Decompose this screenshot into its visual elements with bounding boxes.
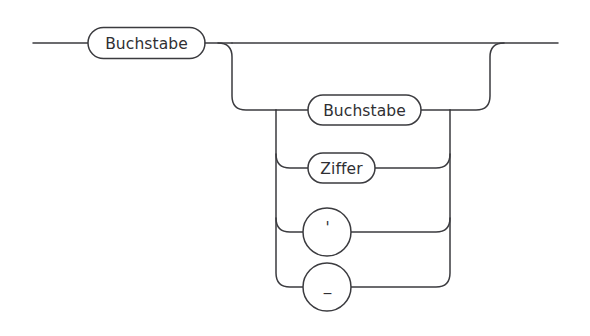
node-first-buchstabe[interactable]: Buchstabe: [88, 28, 205, 59]
railroad-diagram: Buchstabe Buchstabe Ziffer ': [0, 0, 590, 336]
branch-line-apostrophe-right: [351, 218, 450, 232]
node-loop-underscore[interactable]: _: [303, 263, 351, 311]
branch-right-rail: [351, 110, 450, 287]
loop-ziffer-label: Ziffer: [320, 160, 363, 178]
first-buchstabe-label: Buchstabe: [105, 35, 188, 53]
branch-left-rail: [276, 110, 303, 287]
branch-line-apostrophe-left: [276, 218, 303, 232]
branch-line-ziffer-right: [375, 154, 450, 168]
node-loop-ziffer[interactable]: Ziffer: [308, 153, 375, 183]
loop-left-descender: [218, 43, 276, 110]
node-loop-buchstabe[interactable]: Buchstabe: [308, 95, 421, 125]
loop-right-ascender: [450, 43, 504, 110]
branch-line-ziffer-left: [276, 154, 308, 168]
loop-buchstabe-label: Buchstabe: [323, 102, 406, 120]
loop-apostrophe-label: ': [325, 219, 329, 237]
syntax-diagram-canvas: Buchstabe Buchstabe Ziffer ': [0, 0, 590, 336]
loop-underscore-label: _: [323, 276, 332, 295]
node-loop-apostrophe[interactable]: ': [303, 208, 351, 256]
